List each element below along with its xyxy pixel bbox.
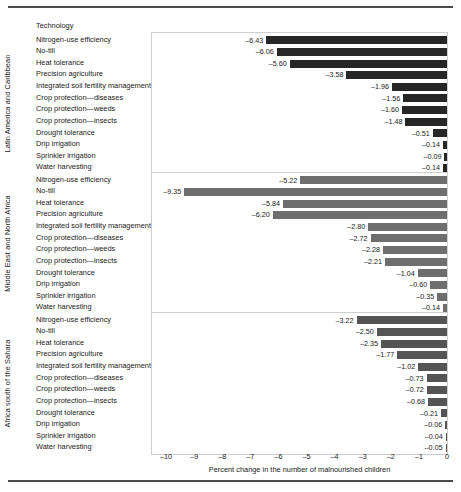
bar-row: –2.35 xyxy=(152,338,447,350)
bar-value-label: –6.20 xyxy=(252,210,270,220)
x-tick-label: –8 xyxy=(218,452,226,461)
bar-value-label: –2.21 xyxy=(364,257,382,267)
bar-value-label: –1.77 xyxy=(376,350,394,360)
category-labels-panel-0: Nitrogen-use efficiencyNo-tillHeat toler… xyxy=(36,34,148,174)
bar xyxy=(403,94,447,102)
bar xyxy=(437,293,447,301)
bar-row: –1.04 xyxy=(152,268,447,280)
bar-row: –3.58 xyxy=(152,69,447,81)
bar xyxy=(402,106,447,114)
category-label: Heat tolerance xyxy=(36,57,148,69)
category-label: Integrated soil fertility management xyxy=(36,360,148,372)
bar-value-label: –5.84 xyxy=(262,199,280,209)
bar-value-label: –0.73 xyxy=(406,374,424,384)
bar-value-label: –0.09 xyxy=(423,152,441,162)
bar-row: –5.60 xyxy=(152,58,447,70)
bar-value-label: –2.35 xyxy=(360,339,378,349)
bar-value-label: –6.06 xyxy=(256,47,274,57)
category-label: Crop protection—insects xyxy=(36,255,148,267)
bar xyxy=(385,258,447,266)
bar-row: –0.51 xyxy=(152,128,447,140)
bar xyxy=(377,328,447,336)
bottom-divider-rule xyxy=(8,480,453,482)
category-label: No-till xyxy=(36,325,148,337)
bar-row: –1.02 xyxy=(152,361,447,373)
plot-panel-0: –6.43–6.06–5.60–3.58–1.96–1.56–1.60–1.48… xyxy=(151,32,448,176)
x-tick-label: –4 xyxy=(331,452,339,461)
category-label: Drought tolerance xyxy=(36,407,148,419)
bar-value-label: –3.22 xyxy=(336,316,354,326)
bar-value-label: –0.51 xyxy=(412,129,430,139)
bar-row: –1.56 xyxy=(152,93,447,105)
bar xyxy=(184,188,447,196)
category-label: Integrated soil fertility management xyxy=(36,220,148,232)
bar-row: –0.04 xyxy=(152,431,447,443)
bar-value-label: –6.43 xyxy=(245,36,263,46)
bar-row: –0.60 xyxy=(152,279,447,291)
bar-row: –2.80 xyxy=(152,221,447,233)
category-label: Nitrogen-use efficiency xyxy=(36,174,148,186)
bar-row: –9.35 xyxy=(152,186,447,198)
category-label: Heat tolerance xyxy=(36,197,148,209)
category-label: Nitrogen-use efficiency xyxy=(36,34,148,46)
bar-row: –0.06 xyxy=(152,419,447,431)
category-label: Crop protection—weeds xyxy=(36,243,148,255)
bar-value-label: –1.04 xyxy=(397,269,415,279)
category-label: Water harvesting xyxy=(36,441,148,453)
category-label: Sprinkler irrigation xyxy=(36,290,148,302)
bar-row: –1.60 xyxy=(152,104,447,116)
region-axis-title-1: Middle East and North Africa xyxy=(0,172,14,316)
region-axis-title-text: Latin America and Caribbean xyxy=(3,54,12,152)
category-label: Drought tolerance xyxy=(36,267,148,279)
bar xyxy=(290,60,447,68)
category-label: Crop protection—diseases xyxy=(36,372,148,384)
region-axis-title-text: Africa south of the Sahara xyxy=(3,339,12,427)
category-label: Nitrogen-use efficiency xyxy=(36,314,148,326)
x-axis-ticks: –10–9–8–7–6–5–4–3–2–10 xyxy=(151,452,448,462)
bar xyxy=(428,398,447,406)
category-label: Sprinkler irrigation xyxy=(36,430,148,442)
bar-value-label: –0.72 xyxy=(406,385,424,395)
category-label: Precision agriculture xyxy=(36,68,148,80)
region-axis-title-text: Middle East and North Africa xyxy=(3,195,12,291)
bar-value-label: –0.68 xyxy=(407,397,425,407)
bar-row: –1.48 xyxy=(152,116,447,128)
bar-row: –5.22 xyxy=(152,175,447,187)
bar xyxy=(441,409,447,417)
bar xyxy=(397,351,447,359)
x-tick-label: –6 xyxy=(274,452,282,461)
bar-row: –2.72 xyxy=(152,233,447,245)
bar-value-label: –2.50 xyxy=(356,327,374,337)
category-label: Precision agriculture xyxy=(36,208,148,220)
bar-row: –2.28 xyxy=(152,244,447,256)
bar-row: –0.14 xyxy=(152,139,447,151)
category-label: Precision agriculture xyxy=(36,348,148,360)
region-axis-title-0: Latin America and Caribbean xyxy=(0,32,14,176)
x-tick-label: –2 xyxy=(387,452,395,461)
bar-row: –3.22 xyxy=(152,315,447,327)
bar xyxy=(283,200,447,208)
bar xyxy=(427,386,447,394)
bar-value-label: –0.14 xyxy=(422,140,440,150)
category-labels-panel-1: Nitrogen-use efficiencyNo-tillHeat toler… xyxy=(36,174,148,314)
category-label: Crop protection—insects xyxy=(36,115,148,127)
bar xyxy=(371,234,447,242)
category-label: Heat tolerance xyxy=(36,337,148,349)
top-divider-rule xyxy=(8,6,453,8)
bar xyxy=(383,246,447,254)
bar-value-label: –3.58 xyxy=(325,70,343,80)
bar xyxy=(446,433,447,441)
category-label: Crop protection—weeds xyxy=(36,103,148,115)
category-label: Crop protection—insects xyxy=(36,395,148,407)
bar-value-label: –9.35 xyxy=(163,187,181,197)
bar-row: –0.68 xyxy=(152,396,447,408)
column-header-technology: Technology xyxy=(36,20,73,32)
x-tick-label: –9 xyxy=(190,452,198,461)
x-tick-label: –3 xyxy=(359,452,367,461)
bar-value-label: –2.80 xyxy=(347,222,365,232)
x-axis-label: Percent change in the number of malnouri… xyxy=(151,465,448,474)
bar-value-label: –0.06 xyxy=(424,420,442,430)
bar xyxy=(300,176,447,184)
bar-value-label: –0.60 xyxy=(409,280,427,290)
category-label: Drought tolerance xyxy=(36,127,148,139)
